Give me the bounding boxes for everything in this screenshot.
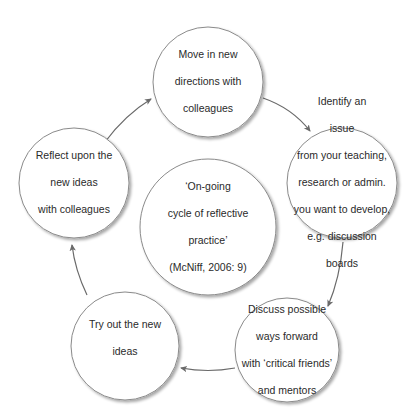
node-identify-circle [287,128,397,238]
node-discuss-circle [235,298,339,402]
node-try-circle [71,292,179,400]
arrow-discuss-to-try [181,368,235,371]
arrow-reflect-to-move [105,99,151,142]
arrow-identify-to-discuss [328,242,343,306]
arrow-move-to-identify [263,98,310,131]
node-move-circle [153,27,263,137]
center-circle [140,159,276,295]
arrow-try-to-reflect [72,245,87,295]
cycle-diagram [0,0,413,420]
node-reflect-circle [19,128,129,238]
